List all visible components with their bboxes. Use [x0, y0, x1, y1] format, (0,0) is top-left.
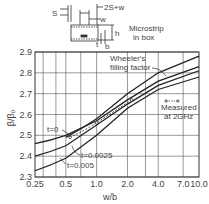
x-axis-label: w/b: [102, 192, 117, 202]
inset-caption-2: in box: [133, 33, 154, 42]
y-tick-label: 2.3: [19, 172, 32, 182]
inset-label-span: 2S+w: [104, 3, 124, 12]
y-tick-label: 2.7: [19, 89, 32, 99]
inset-label-t: t: [96, 40, 99, 49]
x-tick-label: 1.0: [90, 179, 103, 189]
x-tick-label: 2.0: [121, 179, 134, 189]
x-tick-label: 0.5: [60, 179, 73, 189]
chart: S 2S+w w h t b Microstrip in box 0.250.5…: [0, 0, 209, 204]
measured-data-point: [95, 122, 98, 125]
y-tick-label: 2.4: [19, 151, 32, 161]
x-tick-label: 10.0: [190, 179, 208, 189]
annotation-t005: t=0.005: [67, 161, 94, 170]
annotation-measured-2: at 2GHz: [164, 112, 193, 121]
x-tick-label: 4.0: [152, 179, 165, 189]
series-line-t-0-005: [35, 77, 199, 171]
inset-caption-1: Microstrip: [129, 24, 164, 33]
annotation-wheeler-1: Wheeler's: [110, 54, 145, 63]
annotation-wheeler-2: filling factor: [110, 63, 151, 72]
y-tick-label: 2.8: [19, 68, 32, 78]
annotation-t0025: t=0.0025: [81, 151, 113, 160]
strip: [81, 35, 87, 37]
y-tick-label: 2.9: [19, 47, 32, 57]
inset-label-w: w: [99, 15, 106, 24]
measured-data-point: [130, 99, 133, 102]
measured-legend-symbol: [165, 100, 179, 102]
annotation-measured-1: Measured: [161, 103, 197, 112]
inset-label-h: h: [115, 29, 119, 38]
x-tick-label: 7.0: [177, 179, 190, 189]
inset-label-b: b: [105, 42, 110, 51]
y-tick-label: 2.6: [19, 110, 32, 120]
y-axis-label: β/β₀: [6, 109, 16, 126]
annotation-t0: t=0: [47, 125, 59, 134]
y-tick-label: 2.5: [19, 130, 32, 140]
inset-label-s: S: [52, 9, 57, 18]
